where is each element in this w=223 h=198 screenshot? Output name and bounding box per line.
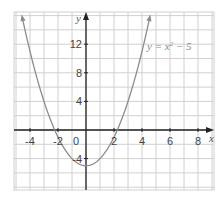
x-tick-label: 6 bbox=[167, 135, 173, 147]
y-tick-label: -4 bbox=[72, 153, 82, 165]
equation-label: y = x2 − 5 bbox=[146, 40, 192, 52]
x-axis-label: x bbox=[208, 132, 214, 144]
x-tick-label: 8 bbox=[195, 135, 201, 147]
y-tick-label: 4 bbox=[76, 95, 82, 107]
y-tick-label: 8 bbox=[76, 67, 82, 79]
x-tick-label: -4 bbox=[25, 135, 35, 147]
x-tick-label: -2 bbox=[53, 135, 63, 147]
x-tick-label: 4 bbox=[139, 135, 145, 147]
y-axis-label: y bbox=[75, 12, 81, 24]
x-tick-label: 2 bbox=[111, 135, 117, 147]
parabola-chart: -4-202468-44812 x y y = x2 − 5 bbox=[0, 0, 223, 198]
y-tick-label: 12 bbox=[70, 38, 82, 50]
x-tick-label: 0 bbox=[73, 135, 79, 147]
